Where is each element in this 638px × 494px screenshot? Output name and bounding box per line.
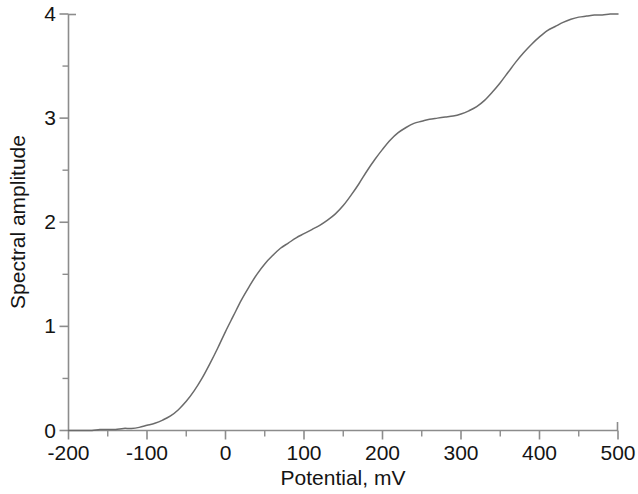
data-series-line bbox=[69, 14, 619, 431]
x-axis-title: Potential, mV bbox=[281, 466, 406, 490]
x-tick-label: 200 bbox=[365, 441, 400, 465]
chart-figure: 01234 -200-1000100200300400500 Potential… bbox=[0, 0, 638, 494]
x-tick-label: 500 bbox=[600, 441, 635, 465]
x-tick-label: 100 bbox=[286, 441, 321, 465]
y-tick-label: 3 bbox=[30, 106, 56, 130]
y-axis-ticks bbox=[60, 14, 69, 431]
y-axis-title: Spectral amplitude bbox=[6, 135, 30, 309]
y-tick-label: 1 bbox=[30, 314, 56, 338]
y-tick-label: 0 bbox=[30, 419, 56, 443]
y-tick-label: 2 bbox=[30, 210, 56, 234]
x-tick-label: -100 bbox=[126, 441, 168, 465]
y-tick-label: 4 bbox=[30, 2, 56, 26]
x-tick-label: -200 bbox=[47, 441, 89, 465]
x-tick-label: 400 bbox=[522, 441, 557, 465]
x-tick-label: 0 bbox=[220, 441, 232, 465]
axis-lines bbox=[68, 14, 618, 431]
plot-area bbox=[0, 0, 638, 494]
x-axis-ticks bbox=[69, 431, 619, 440]
x-tick-label: 300 bbox=[443, 441, 478, 465]
